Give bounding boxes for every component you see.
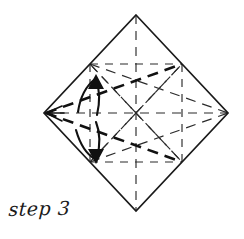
caption-block: step 3	[8, 198, 128, 234]
step-caption: step 3	[8, 195, 129, 220]
origami-step-figure: step 3	[0, 0, 244, 239]
